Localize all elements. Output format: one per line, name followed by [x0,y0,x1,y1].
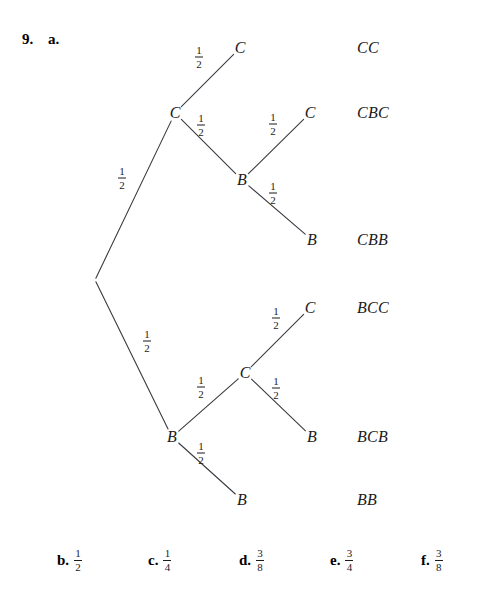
answer-b-value: 12 [74,548,82,573]
fraction-numerator: 1 [197,375,205,387]
fraction-numerator: 1 [164,548,172,560]
tree-node-b1: B [167,428,177,446]
branch-probability-e-b1-b: 12 [197,441,205,466]
answer-f: f.38 [421,548,443,573]
fraction-denominator: 2 [197,388,205,400]
answer-d-letter: d. [239,552,251,569]
fraction-numerator: 1 [272,376,280,388]
outcome-bb: BB [357,491,377,509]
fraction-denominator: 2 [272,319,280,331]
branch-probability-e-root-b1: 12 [143,329,151,354]
outcome-bcc: BCC [357,299,389,317]
tree-branch [179,379,238,431]
outcome-bcb: BCB [357,428,388,446]
tree-node-c1_b_b: B [307,231,317,249]
fraction-numerator: 3 [346,548,354,560]
tree-branch [249,186,305,234]
fraction-denominator: 4 [164,561,172,573]
branch-probability-e-root-c1: 12 [118,166,126,191]
answer-e: e.34 [330,548,353,573]
answer-e-letter: e. [330,552,340,569]
outcome-cc: CC [357,39,379,57]
fraction-numerator: 3 [256,548,264,560]
answer-b: b.12 [57,548,82,573]
part-a-label: a. [48,31,59,48]
branch-probability-e-c1b-b: 12 [269,181,277,206]
problem-number: 9. [22,31,33,48]
fraction-denominator: 4 [346,561,354,573]
fraction-denominator: 2 [197,126,205,138]
branch-probability-e-b1c-b: 12 [272,376,280,401]
fraction-numerator: 1 [269,112,277,124]
branch-probability-e-b1c-c: 12 [272,306,280,331]
fraction-denominator: 2 [197,454,205,466]
fraction-denominator: 2 [195,58,203,70]
fraction-numerator: 1 [118,166,126,178]
fraction-denominator: 2 [143,342,151,354]
tree-node-b1_c_b: B [307,428,317,446]
tree-node-c1_b_c: C [305,104,316,122]
fraction-denominator: 2 [74,561,82,573]
answer-d: d.38 [239,548,264,573]
branch-probability-e-c1-b: 12 [197,113,205,138]
answer-f-letter: f. [421,552,430,569]
tree-node-b1_b: B [237,491,247,509]
tree-branch [179,443,236,494]
outcome-cbb: CBB [357,231,388,249]
fraction-numerator: 1 [269,181,277,193]
tree-branch [181,119,235,173]
fraction-denominator: 8 [256,561,264,573]
branch-probability-e-b1-c: 12 [197,375,205,400]
tree-branch [96,121,171,278]
tree-node-b1_c: C [240,364,251,382]
fraction-numerator: 3 [435,548,443,560]
fraction-numerator: 1 [195,45,203,57]
tree-branch [181,54,233,106]
fraction-numerator: 1 [74,548,82,560]
answer-d-value: 38 [256,548,264,573]
answer-c-value: 14 [163,548,171,573]
fraction-numerator: 1 [143,329,151,341]
fraction-numerator: 1 [272,306,280,318]
tree-node-c1_c: C [235,39,246,57]
answer-b-letter: b. [57,552,69,569]
tree-node-c1_b: B [237,171,247,189]
fraction-denominator: 2 [118,179,126,191]
fraction-numerator: 1 [197,441,205,453]
probability-tree-figure: 9. a. CBCBCBCBCB 12121212121212121212 CC… [0,0,487,593]
branch-probability-e-c1b-c: 12 [269,112,277,137]
fraction-denominator: 2 [272,389,280,401]
tree-branch [96,282,168,429]
answer-c: c.14 [148,548,171,573]
fraction-denominator: 2 [269,125,277,137]
answers-row: b.12c.14d.38e.34f.38 [0,548,487,588]
branch-probability-e-c1-c: 12 [195,45,203,70]
outcome-cbc: CBC [357,104,389,122]
answer-c-letter: c. [148,552,158,569]
tree-node-b1_c_c: C [305,299,316,317]
tree-node-c1: C [170,104,181,122]
fraction-denominator: 8 [435,561,443,573]
fraction-numerator: 1 [197,113,205,125]
answer-f-value: 38 [435,548,443,573]
answer-e-value: 34 [345,548,353,573]
fraction-denominator: 2 [269,194,277,206]
